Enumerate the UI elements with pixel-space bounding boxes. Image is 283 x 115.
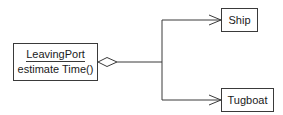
operation-estimate-time: estimate Time() — [18, 63, 94, 76]
class-name-tugboat: Tugboat — [228, 94, 268, 107]
aggregation-diamond-icon — [98, 58, 117, 67]
class-tugboat: Tugboat — [221, 88, 274, 112]
class-ship: Ship — [221, 8, 258, 32]
class-name-ship: Ship — [228, 14, 250, 27]
class-leavingport: LeavingPort estimate Time() — [13, 43, 98, 81]
class-name-leavingport: LeavingPort — [26, 48, 85, 62]
